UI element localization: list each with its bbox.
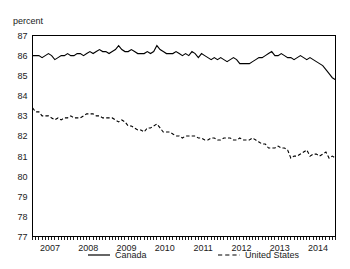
y-axis-tick-label: 85	[17, 71, 27, 81]
legend-label-canada: Canada	[115, 250, 147, 260]
y-axis-tick-label: 78	[17, 212, 27, 222]
y-axis-tick-label: 80	[17, 172, 27, 182]
legend-item-united-states: United States	[218, 250, 299, 260]
legend-item-canada: Canada	[88, 250, 147, 260]
y-axis-tick-label: 83	[17, 111, 27, 121]
y-axis-tick-label: 82	[17, 131, 27, 141]
y-axis-tick-label: 86	[17, 51, 27, 61]
series-line-canada	[33, 46, 336, 80]
legend-label-united-states: United States	[245, 250, 299, 260]
data-series-group	[33, 46, 336, 159]
y-axis-tick-label: 84	[17, 91, 27, 101]
y-axis-tick-label: 81	[17, 152, 27, 162]
legend-swatch-solid-line-icon	[88, 251, 110, 259]
y-axis-tick-label: 87	[17, 31, 27, 41]
y-axis-tick-label: 77	[17, 232, 27, 242]
plot-frame	[33, 36, 336, 237]
chart-container: percent 7778798081828384858687 200720082…	[0, 0, 350, 269]
chart-legend: Canada United States	[0, 250, 350, 266]
y-axis-tick-labels: 7778798081828384858687	[17, 31, 27, 242]
line-chart-plot: 7778798081828384858687 20072008200920102…	[0, 0, 350, 269]
legend-swatch-dashed-line-icon	[218, 251, 240, 259]
series-line-united-states	[33, 108, 336, 158]
y-axis-tick-label: 79	[17, 192, 27, 202]
